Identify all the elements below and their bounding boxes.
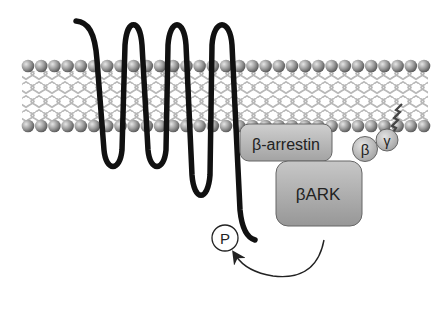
lipid-head <box>286 60 299 73</box>
lipid-head <box>391 60 404 73</box>
g-beta-subunit: β <box>353 137 378 162</box>
lipid-head <box>352 60 365 73</box>
lipid-head <box>61 60 74 73</box>
g-beta-label: β <box>361 141 370 158</box>
lipid-head <box>246 60 259 73</box>
lipid-head <box>127 60 140 73</box>
lipid-head <box>365 60 378 73</box>
lipid-head <box>220 120 233 133</box>
beta-arrestin-label: β-arrestin <box>252 136 320 153</box>
lipid-head <box>75 120 88 133</box>
lipid-head <box>193 60 206 73</box>
g-gamma-subunit: γ <box>376 129 398 151</box>
beta-arrestin: β-arrestin <box>240 124 332 161</box>
lipid-head <box>339 60 352 73</box>
lipid-head <box>35 120 48 133</box>
lipid-head <box>299 60 312 73</box>
lipid-head <box>75 60 88 73</box>
g-gamma-label: γ <box>384 133 391 149</box>
lipid-head <box>88 120 101 133</box>
lipid-head <box>48 60 61 73</box>
bark-kinase: βARK <box>276 161 362 226</box>
lipid-head <box>352 120 365 133</box>
lipid-heads-bottom <box>22 120 431 133</box>
lipid-head <box>101 60 114 73</box>
lipid-head <box>312 60 325 73</box>
lipid-head <box>193 120 206 133</box>
lipid-head <box>405 60 418 73</box>
lipid-head <box>418 60 431 73</box>
lipid-head <box>339 120 352 133</box>
lipid-head <box>325 60 338 73</box>
bark-label: βARK <box>296 185 341 204</box>
phosphate: P <box>212 225 238 251</box>
lipid-head <box>365 120 378 133</box>
phosphate-label: P <box>220 230 230 247</box>
lipid-head <box>22 120 35 133</box>
lipid-head <box>154 60 167 73</box>
lipid-heads-top <box>22 60 431 73</box>
lipid-head <box>48 120 61 133</box>
lipid-tails <box>22 71 428 121</box>
lipid-head <box>405 120 418 133</box>
lipid-head <box>35 60 48 73</box>
lipid-head <box>259 60 272 73</box>
lipid-head <box>61 120 74 133</box>
lipid-head <box>378 60 391 73</box>
lipid-head <box>22 60 35 73</box>
phosphorylation-arrow <box>236 240 324 277</box>
lipid-head <box>273 60 286 73</box>
lipid-head <box>418 120 431 133</box>
diagram-canvas: β-arrestin βARK β γ P <box>0 0 438 328</box>
lipid-head <box>127 120 140 133</box>
